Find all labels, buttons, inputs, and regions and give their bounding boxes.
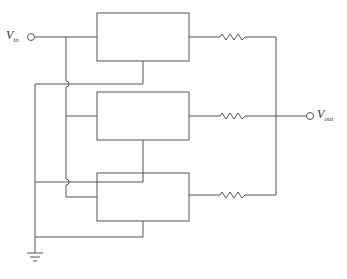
vin-label: Vin xyxy=(6,28,19,44)
resistor-3 xyxy=(189,192,276,198)
block-1 xyxy=(97,13,189,61)
block-2 xyxy=(97,92,189,140)
block-3-ground xyxy=(35,221,143,237)
block-1-ground xyxy=(35,61,143,84)
vin-terminal xyxy=(28,34,35,41)
vout-label: Vout xyxy=(317,107,333,123)
circuit-diagram xyxy=(0,0,347,279)
resistor-2 xyxy=(189,113,307,119)
vout-terminal xyxy=(307,113,314,120)
resistor-1 xyxy=(189,34,276,40)
input-bus xyxy=(66,37,69,197)
